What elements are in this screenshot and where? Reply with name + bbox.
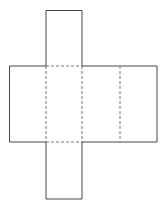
fold-lines [46, 66, 120, 142]
prism-net-diagram [0, 0, 166, 203]
net-outline [10, 11, 158, 200]
